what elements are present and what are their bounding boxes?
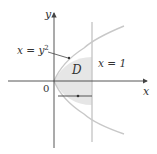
leader-dot: [68, 57, 70, 59]
vertical-line-equation-label: x = 1: [98, 57, 126, 69]
parabola-equation-lhs: x = y: [17, 44, 45, 56]
diagram-canvas: y x 0 x = y2 D x = 1: [0, 0, 157, 154]
x-axis-label: x: [143, 85, 150, 98]
parabola-equation-label: x = y2: [17, 44, 49, 56]
strip-arrow-dot: [77, 95, 80, 98]
parabola-equation-exponent: 2: [44, 44, 48, 52]
region-label: D: [71, 63, 82, 77]
origin-label: 0: [43, 83, 49, 94]
y-axis-label: y: [44, 8, 52, 21]
parabola-leader-line: [48, 52, 68, 58]
